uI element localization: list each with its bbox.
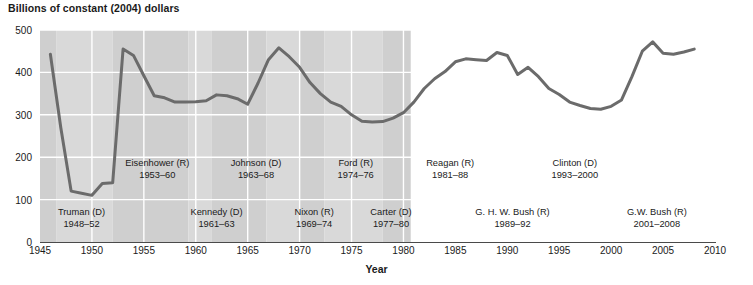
president-years: 1989–92: [475, 219, 549, 231]
president-annotation: G. H. W. Bush (R)1989–92: [475, 207, 549, 230]
president-years: 1953–60: [125, 170, 189, 182]
y-axis-tick-labels: 0100200300400500: [0, 30, 36, 242]
president-name: Kennedy (D): [190, 207, 242, 219]
president-years: 1974–76: [338, 170, 374, 182]
president-name: Johnson (D): [231, 158, 282, 170]
x-tick-label: 1990: [496, 245, 518, 256]
x-tick-label: 1985: [444, 245, 466, 256]
president-years: 1963–68: [231, 170, 282, 182]
x-tick-label: 1965: [237, 245, 259, 256]
x-axis-tick-labels: 1945195019551960196519701975198019851990…: [0, 245, 753, 261]
x-axis-title: Year: [0, 263, 753, 275]
y-tick-label: 300: [15, 109, 32, 120]
y-tick-label: 100: [15, 194, 32, 205]
president-years: 1948–52: [58, 219, 105, 231]
president-years: 1961–63: [190, 219, 242, 231]
x-tick-label: 2000: [600, 245, 622, 256]
president-annotation: G.W. Bush (R)2001–2008: [627, 207, 687, 230]
president-years: 1977–80: [370, 219, 411, 231]
president-name: Reagan (R): [426, 158, 474, 170]
term-band: [40, 30, 57, 242]
x-tick-label: 2005: [652, 245, 674, 256]
x-tick-label: 1950: [81, 245, 103, 256]
president-name: Eisenhower (R): [125, 158, 189, 170]
y-tick-label: 200: [15, 152, 32, 163]
president-name: Nixon (R): [295, 207, 334, 219]
president-years: 2001–2008: [627, 219, 687, 231]
x-tick-label: 1980: [392, 245, 414, 256]
x-axis-baseline: [40, 242, 716, 243]
x-tick-label: 1970: [288, 245, 310, 256]
president-name: Ford (R): [338, 158, 374, 170]
chart-title: Billions of constant (2004) dollars: [8, 2, 180, 14]
president-name: G. H. W. Bush (R): [475, 207, 549, 219]
x-tick-label: 1995: [548, 245, 570, 256]
president-annotation: Eisenhower (R)1953–60: [125, 158, 189, 181]
president-annotation: Ford (R)1974–76: [338, 158, 374, 181]
y-tick-label: 400: [15, 67, 32, 78]
president-annotation: Nixon (R)1969–74: [295, 207, 334, 230]
president-years: 1981–88: [426, 170, 474, 182]
x-tick-label: 1975: [340, 245, 362, 256]
president-name: Truman (D): [58, 207, 105, 219]
president-annotation: Reagan (R)1981–88: [426, 158, 474, 181]
term-band: [113, 30, 189, 242]
president-annotation: Kennedy (D)1961–63: [190, 207, 242, 230]
president-annotation: Johnson (D)1963–68: [231, 158, 282, 181]
y-tick-label: 500: [15, 25, 32, 36]
president-annotation: Clinton (D)1993–2000: [552, 158, 599, 181]
x-tick-label: 2010: [704, 245, 726, 256]
president-years: 1993–2000: [552, 170, 599, 182]
president-name: G.W. Bush (R): [627, 207, 687, 219]
president-years: 1969–74: [295, 219, 334, 231]
president-annotation: Truman (D)1948–52: [58, 207, 105, 230]
president-annotation: Carter (D)1977–80: [370, 207, 411, 230]
x-tick-label: 1960: [185, 245, 207, 256]
president-name: Clinton (D): [552, 158, 599, 170]
president-name: Carter (D): [370, 207, 411, 219]
x-tick-label: 1955: [133, 245, 155, 256]
x-tick-label: 1945: [29, 245, 51, 256]
